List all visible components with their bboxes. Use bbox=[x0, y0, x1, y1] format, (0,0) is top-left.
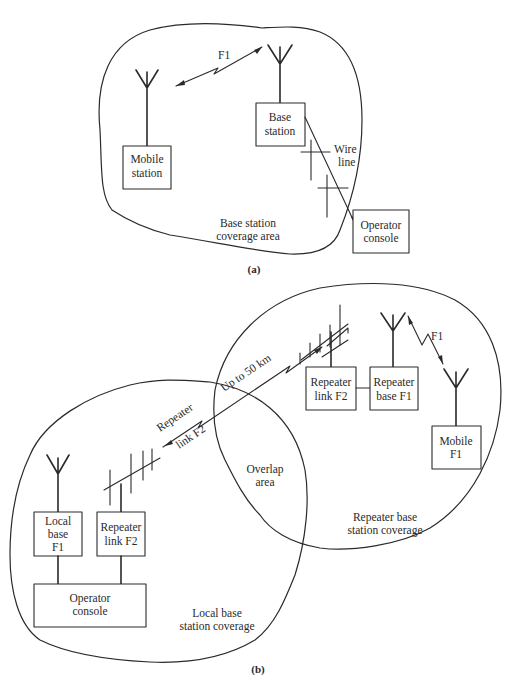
base-station-label-1: Base bbox=[269, 111, 291, 123]
repeater-link-label-2: link F2 bbox=[173, 422, 207, 450]
f1-link-label: F1 bbox=[218, 49, 230, 61]
panel-a: Mobile station Base station F1 Wire line bbox=[99, 24, 409, 276]
repeater-link-left-label-2: link F2 bbox=[105, 535, 138, 547]
antenna-icon bbox=[381, 313, 405, 367]
mobile-station-label-1: Mobile bbox=[130, 153, 163, 165]
mobile-f1: Mobile F1 bbox=[432, 426, 481, 469]
repeater-link-right-label-1: Repeater bbox=[311, 376, 352, 389]
f1-mobile-link: F1 bbox=[408, 316, 443, 364]
mobile-station: Mobile station bbox=[123, 70, 171, 189]
local-base-label-2: base bbox=[48, 528, 68, 540]
repeater-base-label-2: base F1 bbox=[376, 390, 412, 402]
overlap-label-1: Overlap bbox=[246, 463, 283, 476]
operator-console-a: Operator console bbox=[353, 210, 409, 253]
repeater-link-left-label-1: Repeater bbox=[101, 521, 142, 534]
operator-console-label-2: console bbox=[363, 232, 398, 244]
antenna-icon bbox=[444, 369, 468, 426]
operator-console-b-label-1: Operator bbox=[70, 592, 111, 605]
coverage-area-label-2: coverage area bbox=[216, 230, 280, 243]
mobile-f1-label-2: F1 bbox=[450, 448, 462, 460]
overlap-label-2: area bbox=[255, 476, 274, 488]
antenna-icon bbox=[47, 455, 69, 512]
operator-console-b-label-2: console bbox=[72, 605, 107, 617]
f1-radio-link: F1 bbox=[176, 47, 262, 86]
repeater-link-right: Repeater link F2 bbox=[306, 367, 356, 410]
caption-b: (b) bbox=[251, 663, 265, 676]
repeater-base-label-1: Repeater bbox=[374, 376, 415, 389]
local-base-label-1: Local bbox=[45, 515, 71, 527]
repeater-link-left: Repeater link F2 bbox=[97, 512, 145, 556]
arrowhead-icon bbox=[254, 47, 262, 54]
repeater-base: Repeater base F1 bbox=[370, 367, 418, 410]
operator-console-b: Operator console bbox=[34, 584, 146, 627]
repeater-coverage-label-2: station coverage bbox=[347, 524, 422, 537]
wire-line-label-2: line bbox=[338, 156, 355, 168]
f1-mobile-link-label: F1 bbox=[431, 330, 443, 342]
antenna-icon bbox=[268, 45, 292, 103]
operator-console-label-1: Operator bbox=[361, 219, 402, 232]
wire-line: Wire line bbox=[301, 117, 357, 226]
radio-repeater-diagram: Mobile station Base station F1 Wire line bbox=[0, 0, 516, 687]
arrowhead-icon bbox=[314, 347, 322, 354]
mobile-station-label-2: station bbox=[132, 167, 163, 179]
repeater-coverage-label-1: Repeater base bbox=[353, 511, 417, 524]
panel-b: Local base F1 Repeater link F2 Operator … bbox=[10, 284, 501, 676]
coverage-area-label-1: Base station bbox=[220, 217, 276, 229]
local-base: Local base F1 bbox=[34, 512, 82, 556]
antenna-icon bbox=[136, 70, 158, 146]
yagi-antenna-left bbox=[104, 449, 160, 512]
mobile-f1-label-1: Mobile bbox=[439, 435, 472, 447]
caption-a: (a) bbox=[248, 263, 261, 276]
arrowhead-icon bbox=[176, 80, 185, 86]
repeater-radio-path: Repeater link F2 Up to 50 km bbox=[154, 347, 322, 451]
base-station-label-2: station bbox=[265, 125, 296, 137]
local-coverage-label-2: station coverage bbox=[179, 620, 254, 633]
base-station: Base station bbox=[256, 45, 305, 146]
repeater-link-right-label-2: link F2 bbox=[315, 390, 348, 402]
local-coverage-label-1: Local base bbox=[192, 607, 242, 619]
repeater-coverage-region bbox=[214, 284, 501, 550]
local-base-label-3: F1 bbox=[52, 541, 64, 553]
wire-line-label-1: Wire bbox=[334, 143, 357, 155]
